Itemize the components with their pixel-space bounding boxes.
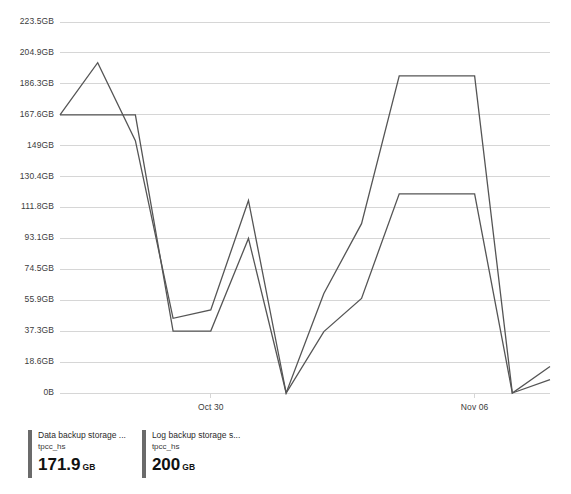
legend-value-unit-log-backup: GB bbox=[182, 462, 195, 472]
y-axis-tick-label: 111.8GB bbox=[6, 201, 54, 211]
legend-item-log-backup[interactable]: Log backup storage s... tpcc_hs 200GB bbox=[142, 430, 252, 478]
legend-item-data-backup[interactable]: Data backup storage ... tpcc_hs 171.9GB bbox=[28, 430, 138, 478]
x-axis-tick-label: Oct 30 bbox=[181, 402, 241, 412]
y-axis-tick-label: 167.6GB bbox=[6, 109, 54, 119]
y-axis-tick-label: 93.1GB bbox=[6, 232, 54, 242]
legend-text-block-log-backup: Log backup storage s... tpcc_hs 200GB bbox=[152, 430, 240, 478]
y-axis-tick-label: 186.3GB bbox=[6, 78, 54, 88]
chart-legend: Data backup storage ... tpcc_hs 171.9GB … bbox=[28, 430, 256, 478]
legend-color-swatch-log-backup bbox=[142, 430, 146, 478]
y-axis-tick-label: 74.5GB bbox=[6, 263, 54, 273]
y-axis-tick-label: 149GB bbox=[6, 140, 54, 150]
y-axis-tick-label: 18.6GB bbox=[6, 356, 54, 366]
chart-root: 0B18.6GB37.3GB55.9GB74.5GB93.1GB111.8GB1… bbox=[0, 0, 571, 494]
y-axis-tick-label: 37.3GB bbox=[6, 325, 54, 335]
series-line-data-backup bbox=[60, 115, 550, 393]
y-axis-tick-label: 0B bbox=[6, 387, 54, 397]
legend-value-log-backup: 200GB bbox=[152, 454, 240, 478]
legend-title-log-backup: Log backup storage s... bbox=[152, 430, 240, 441]
y-axis-tick-label: 130.4GB bbox=[6, 171, 54, 181]
series-line-log-backup bbox=[60, 63, 550, 393]
legend-value-number-log-backup: 200 bbox=[152, 455, 180, 474]
line-chart-svg bbox=[0, 0, 571, 420]
legend-text-block-data-backup: Data backup storage ... tpcc_hs 171.9GB bbox=[38, 430, 126, 478]
legend-subtitle-log-backup: tpcc_hs bbox=[152, 441, 240, 452]
legend-value-number-data-backup: 171.9 bbox=[38, 455, 81, 474]
x-axis-tick-label: Nov 06 bbox=[445, 402, 505, 412]
y-axis-tick-label: 223.5GB bbox=[6, 16, 54, 26]
legend-value-unit-data-backup: GB bbox=[83, 462, 96, 472]
chart-plot-area bbox=[0, 0, 571, 420]
y-axis-tick-label: 55.9GB bbox=[6, 294, 54, 304]
legend-title-data-backup: Data backup storage ... bbox=[38, 430, 126, 441]
legend-value-data-backup: 171.9GB bbox=[38, 454, 126, 478]
legend-color-swatch-data-backup bbox=[28, 430, 32, 478]
y-axis-tick-label: 204.9GB bbox=[6, 47, 54, 57]
legend-subtitle-data-backup: tpcc_hs bbox=[38, 441, 126, 452]
